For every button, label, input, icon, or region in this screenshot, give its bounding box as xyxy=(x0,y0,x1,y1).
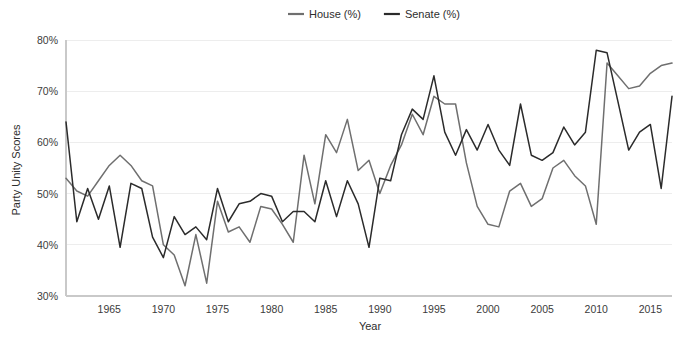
x-tick-label: 1975 xyxy=(206,303,230,315)
x-tick-label: 1995 xyxy=(422,303,446,315)
y-tick-label: 80% xyxy=(37,34,58,46)
x-tick-labels-group: 1965197019751980198519901995200020052010… xyxy=(98,303,663,315)
y-axis-title: Party Unity Scores xyxy=(10,124,22,216)
legend-label-house[interactable]: House (%) xyxy=(309,8,361,20)
series-line-house xyxy=(66,63,672,286)
x-tick-label: 1965 xyxy=(98,303,122,315)
x-tick-label: 2005 xyxy=(530,303,554,315)
axis-lines-group xyxy=(66,40,672,296)
x-tick-label: 1985 xyxy=(314,303,338,315)
x-axis-title: Year xyxy=(359,320,382,332)
chart-container: 30%40%50%60%70%80% 196519701975198019851… xyxy=(0,0,684,347)
x-tick-label: 1990 xyxy=(368,303,392,315)
y-tick-label: 60% xyxy=(37,136,58,148)
x-tick-label: 2000 xyxy=(476,303,500,315)
gridlines-group xyxy=(66,40,672,245)
y-tick-label: 50% xyxy=(37,188,58,200)
y-tick-label: 40% xyxy=(37,239,58,251)
series-line-senate xyxy=(66,50,672,257)
x-tick-label: 2010 xyxy=(585,303,609,315)
series-group xyxy=(66,50,672,286)
x-tick-label: 1970 xyxy=(152,303,176,315)
x-tick-label: 2015 xyxy=(639,303,663,315)
y-tick-label: 70% xyxy=(37,85,58,97)
y-tick-labels-group: 30%40%50%60%70%80% xyxy=(37,34,58,302)
party-unity-line-chart: 30%40%50%60%70%80% 196519701975198019851… xyxy=(0,0,684,347)
legend-group: House (%)Senate (%) xyxy=(288,8,460,20)
x-tick-label: 1980 xyxy=(260,303,284,315)
y-tick-label: 30% xyxy=(37,290,58,302)
legend-label-senate[interactable]: Senate (%) xyxy=(405,8,460,20)
